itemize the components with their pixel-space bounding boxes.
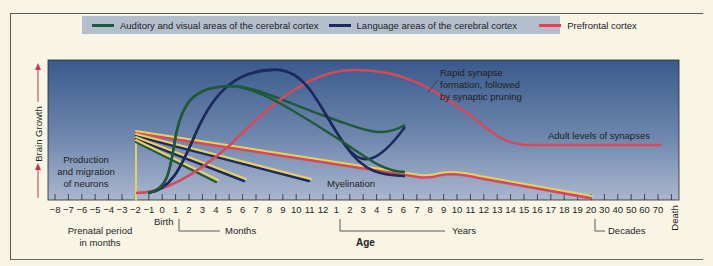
- svg-text:8: 8: [267, 204, 272, 215]
- svg-text:−1: −1: [143, 204, 154, 215]
- svg-text:7: 7: [253, 204, 258, 215]
- svg-text:in months: in months: [79, 237, 120, 248]
- prenatal-label: Prenatal period in months: [68, 225, 132, 248]
- svg-text:12: 12: [318, 204, 329, 215]
- svg-text:5: 5: [227, 204, 232, 215]
- svg-text:9: 9: [280, 204, 285, 215]
- svg-text:10: 10: [291, 204, 302, 215]
- svg-text:30: 30: [599, 204, 610, 215]
- svg-text:−5: −5: [90, 204, 101, 215]
- svg-text:8: 8: [428, 204, 433, 215]
- svg-text:5: 5: [387, 204, 392, 215]
- svg-text:4: 4: [374, 204, 379, 215]
- chart-svg: Brain Growth −8 −7 −6 −5 −4 −3 −2 −1 0 1…: [0, 0, 713, 266]
- svg-text:−7: −7: [63, 204, 74, 215]
- months-bracket: [179, 219, 220, 231]
- death-label: Death: [669, 205, 680, 230]
- svg-text:−3: −3: [117, 204, 128, 215]
- x-axis-title: Age: [356, 237, 375, 248]
- annotation-production: Production and migration of neurons: [57, 154, 115, 189]
- months-label: Months: [225, 225, 256, 236]
- svg-text:and migration: and migration: [57, 166, 115, 177]
- svg-text:9: 9: [441, 204, 446, 215]
- svg-text:formation, followed: formation, followed: [440, 79, 520, 90]
- svg-text:19: 19: [572, 204, 583, 215]
- svg-text:12: 12: [479, 204, 490, 215]
- svg-text:3: 3: [361, 204, 366, 215]
- svg-text:70: 70: [653, 204, 664, 215]
- annotation-myelination: Myelination: [327, 178, 375, 189]
- decades-bracket: [595, 219, 605, 231]
- svg-text:50: 50: [626, 204, 637, 215]
- svg-text:13: 13: [492, 204, 503, 215]
- years-label: Years: [452, 225, 476, 236]
- svg-text:4: 4: [213, 204, 218, 215]
- birth-label: Birth: [154, 216, 174, 227]
- svg-text:2: 2: [347, 204, 352, 215]
- svg-text:11: 11: [465, 204, 475, 215]
- x-tick-labels: −8 −7 −6 −5 −4 −3 −2 −1 0 1 2 3 4 5 6 7 …: [50, 204, 664, 215]
- svg-text:of neurons: of neurons: [64, 178, 109, 189]
- svg-text:20: 20: [586, 204, 597, 215]
- annotation-adult-levels: Adult levels of synapses: [548, 130, 650, 141]
- svg-text:11: 11: [305, 204, 315, 215]
- svg-text:6: 6: [240, 204, 245, 215]
- svg-text:40: 40: [613, 204, 624, 215]
- svg-text:0: 0: [160, 204, 165, 215]
- svg-text:10: 10: [452, 204, 463, 215]
- svg-text:Rapid synapse: Rapid synapse: [440, 67, 503, 78]
- svg-text:16: 16: [532, 204, 543, 215]
- svg-text:14: 14: [505, 204, 516, 215]
- svg-text:6: 6: [401, 204, 406, 215]
- y-axis-label: Brain Growth: [33, 106, 44, 161]
- svg-text:Production: Production: [63, 154, 108, 165]
- svg-text:3: 3: [200, 204, 205, 215]
- years-bracket: [340, 219, 445, 231]
- svg-text:Prenatal period: Prenatal period: [68, 225, 132, 236]
- svg-text:17: 17: [546, 204, 557, 215]
- svg-text:by synaptic pruning: by synaptic pruning: [440, 91, 522, 102]
- decades-label: Decades: [608, 225, 646, 236]
- svg-text:18: 18: [559, 204, 570, 215]
- svg-text:−2: −2: [130, 204, 141, 215]
- svg-text:−6: −6: [76, 204, 87, 215]
- svg-text:15: 15: [519, 204, 530, 215]
- svg-text:−4: −4: [103, 204, 114, 215]
- svg-text:1: 1: [334, 204, 339, 215]
- svg-text:2: 2: [186, 204, 191, 215]
- svg-text:60: 60: [639, 204, 650, 215]
- svg-text:7: 7: [414, 204, 419, 215]
- svg-text:−8: −8: [50, 204, 61, 215]
- svg-text:1: 1: [173, 204, 178, 215]
